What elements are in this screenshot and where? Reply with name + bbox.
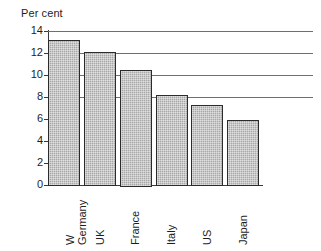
bar [227,120,259,186]
y-tick-label: 12 [31,47,43,58]
bar [120,70,152,187]
x-tick-label: W Germany [64,200,88,245]
bar [191,105,223,186]
y-tick-label: 8 [37,91,43,102]
y-axis-tick-labels: 14121086420 [12,0,43,251]
y-tick-label: 4 [37,135,43,146]
y-tick-label: 14 [31,25,43,36]
y-tick-label: 0 [37,179,43,190]
bar [84,52,116,186]
x-tick-label: France [129,211,141,245]
bar [156,95,188,186]
gridline [48,31,313,32]
y-tick-label: 2 [37,157,43,168]
x-tick-label: UK [94,230,106,245]
x-tick-label: Italy [165,225,177,245]
y-tick-label: 10 [31,69,43,80]
bar [48,40,80,186]
x-tick-label: US [201,230,213,245]
x-tick-label: Japan [237,215,249,245]
bar-chart: Per cent 14121086420 W GermanyUKFranceIt… [0,0,321,251]
y-tick-label: 6 [37,113,43,124]
